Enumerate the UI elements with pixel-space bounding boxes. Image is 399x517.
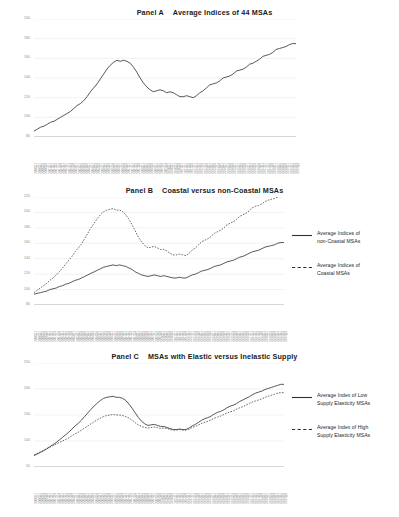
panel-c: Panel CMSAs with Elastic versus Inelasti… xyxy=(0,352,399,517)
panel-c-y-axis: 25020015010050 xyxy=(0,363,32,467)
panel-b-title: Panel BCoastal versus non-Coastal MSAs xyxy=(0,186,399,195)
legend-label-line2: Supply Elasticity MSAs xyxy=(317,432,370,438)
panel-b-y-axis: 22020018016014012010080 xyxy=(0,197,32,305)
panel-a-plot-wrap: 20018016014012010080 2000Q12000Q22000Q32… xyxy=(0,19,399,169)
y-tick-label: 220 xyxy=(24,195,30,199)
y-tick-label: 160 xyxy=(24,57,30,61)
panel-b-label: Panel B xyxy=(126,186,153,195)
y-tick-label: 200 xyxy=(24,387,30,391)
legend-item: Average Indices of Coastal MSAs xyxy=(292,262,396,277)
y-tick-label: 250 xyxy=(24,361,30,365)
panel-c-title-text: MSAs with Elastic versus Inelastic Suppl… xyxy=(148,352,298,361)
y-tick-label: 120 xyxy=(24,272,30,276)
panel-c-legend: Average Index of Low Supply Elasticity M… xyxy=(292,392,396,457)
legend-label-line2: non-Coastal MSAs xyxy=(317,238,360,244)
series-line xyxy=(34,243,284,295)
panel-b-legend: Average Indices of non-Coastal MSAs Aver… xyxy=(292,230,396,295)
y-tick-label: 80 xyxy=(26,135,30,139)
y-tick-label: 150 xyxy=(24,413,30,417)
legend-item: Average Index of Low Supply Elasticity M… xyxy=(292,392,396,407)
legend-item: Average Index of High Supply Elasticity … xyxy=(292,424,396,439)
panel-b-title-text: Coastal versus non-Coastal MSAs xyxy=(162,186,283,195)
y-tick-label: 100 xyxy=(24,439,30,443)
series-line xyxy=(34,384,284,455)
y-tick-label: 120 xyxy=(24,96,30,100)
legend-label-line2: Supply Elasticity MSAs xyxy=(317,400,370,406)
series-line xyxy=(34,197,284,293)
panel-a: Panel AAverage Indices of 44 MSAs 200180… xyxy=(0,8,399,178)
legend-label: Average Indices of Coastal MSAs xyxy=(317,262,360,277)
x-tick-label: 2019Q4 xyxy=(285,331,288,342)
panel-c-x-axis: 2000Q12000Q22000Q32000Q42001Q12001Q22001… xyxy=(34,469,284,495)
y-tick-label: 200 xyxy=(24,211,30,215)
series-line xyxy=(34,44,296,132)
panel-a-label: Panel A xyxy=(137,8,164,17)
figure-page: Panel AAverage Indices of 44 MSAs 200180… xyxy=(0,0,399,517)
y-tick-label: 200 xyxy=(24,17,30,21)
panel-b: Panel BCoastal versus non-Coastal MSAs 2… xyxy=(0,186,399,358)
panel-c-label: Panel C xyxy=(112,352,139,361)
panel-a-title-text: Average Indices of 44 MSAs xyxy=(173,8,273,17)
panel-b-x-axis: 2000Q12000Q22000Q32000Q42001Q12001Q22001… xyxy=(34,307,284,333)
panel-a-y-axis: 20018016014012010080 xyxy=(0,19,32,137)
series-line xyxy=(34,393,284,455)
y-tick-label: 140 xyxy=(24,257,30,261)
panel-b-plot xyxy=(34,197,284,305)
solid-line-key-icon xyxy=(292,234,312,237)
legend-label: Average Index of High Supply Elasticity … xyxy=(317,424,370,439)
y-tick-label: 100 xyxy=(24,116,30,120)
y-tick-label: 80 xyxy=(26,303,30,307)
legend-label-line1: Average Indices of xyxy=(317,262,360,268)
panel-a-x-axis: 2000Q12000Q22000Q32000Q42001Q12001Q22001… xyxy=(34,139,296,165)
y-tick-label: 180 xyxy=(24,226,30,230)
y-tick-label: 180 xyxy=(24,37,30,41)
legend-item: Average Indices of non-Coastal MSAs xyxy=(292,230,396,245)
legend-label-line1: Average Indices of xyxy=(317,230,360,236)
x-tick-label: 2019Q4 xyxy=(285,493,288,504)
legend-label-line2: Coastal MSAs xyxy=(317,270,350,276)
y-tick-label: 160 xyxy=(24,241,30,245)
y-tick-label: 100 xyxy=(24,288,30,292)
dashed-line-key-icon xyxy=(292,266,312,269)
panel-c-title: Panel CMSAs with Elastic versus Inelasti… xyxy=(0,352,399,361)
legend-label-line1: Average Index of High xyxy=(317,424,368,430)
y-tick-label: 50 xyxy=(26,465,30,469)
panel-a-title: Panel AAverage Indices of 44 MSAs xyxy=(0,8,399,17)
panel-c-plot xyxy=(34,363,284,467)
panel-a-plot xyxy=(34,19,296,137)
y-tick-label: 140 xyxy=(24,76,30,80)
legend-label-line1: Average Index of Low xyxy=(317,392,367,398)
dashed-line-key-icon xyxy=(292,428,312,431)
legend-label: Average Indices of non-Coastal MSAs xyxy=(317,230,360,245)
x-tick-label: 2019Q4 xyxy=(297,163,300,174)
legend-label: Average Index of Low Supply Elasticity M… xyxy=(317,392,370,407)
solid-line-key-icon xyxy=(292,396,312,399)
